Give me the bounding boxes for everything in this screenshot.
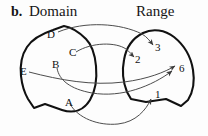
domain-element-D[interactable]: D xyxy=(47,29,55,40)
range-element-2[interactable]: 2 xyxy=(135,54,141,65)
range-element-6[interactable]: 6 xyxy=(179,63,185,74)
domain-element-B[interactable]: B xyxy=(52,59,59,70)
domain-element-A[interactable]: A xyxy=(65,97,73,108)
domain-header-label: Domain xyxy=(29,3,77,20)
figure-caption-letter: b. xyxy=(11,4,22,20)
domain-element-E[interactable]: E xyxy=(20,66,27,77)
diagram-canvas xyxy=(0,0,208,136)
mapping-arrow-E-to-6 xyxy=(29,66,175,83)
range-element-1[interactable]: 1 xyxy=(155,89,161,100)
range-element-3[interactable]: 3 xyxy=(155,42,161,53)
relation-diagram: b. Domain Range D C B E A 3 2 6 1 xyxy=(0,0,208,136)
domain-element-C[interactable]: C xyxy=(69,47,76,58)
range-header-label: Range xyxy=(136,3,174,20)
mapping-arrow-A-to-1 xyxy=(70,99,151,124)
